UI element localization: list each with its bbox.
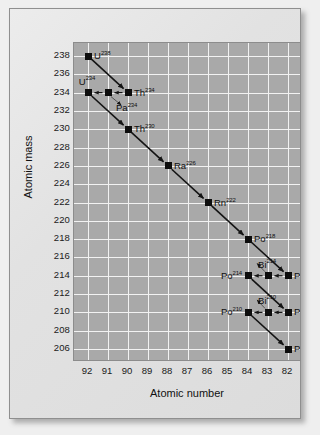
y-tick-label: 206	[30, 342, 70, 353]
x-axis-ticks: 9291908988878685848382	[73, 365, 301, 381]
chart-page: Atomic mass 2382362342322302282262242222…	[0, 0, 320, 435]
data-point-marker	[265, 272, 272, 279]
y-axis-ticks: 2382362342322302282262242222202182162142…	[24, 42, 70, 361]
y-tick-label: 238	[30, 49, 70, 60]
data-point-marker	[285, 272, 292, 279]
nuclide-label: Th234	[134, 86, 155, 97]
y-tick-label: 216	[30, 250, 70, 261]
plot-area: U238Th234Pa234U234Th230Ra226Rn222Po218Pb…	[73, 42, 301, 361]
nuclide-label: Po210	[221, 306, 242, 317]
data-point-marker	[245, 236, 252, 243]
data-point-marker	[205, 199, 212, 206]
y-tick-label: 214	[30, 269, 70, 280]
decay-arrow-alpha	[252, 316, 284, 345]
nuclide-label: Pb214	[294, 269, 301, 280]
data-point-marker	[85, 53, 92, 60]
decay-arrow-alpha	[132, 133, 164, 162]
nuclide-label: Ra226	[174, 160, 196, 171]
y-tick-label: 212	[30, 287, 70, 298]
data-point-marker	[245, 272, 252, 279]
data-point-marker	[125, 126, 132, 133]
nuclide-label: Po214	[221, 269, 242, 280]
nuclide-label: Bi214	[258, 258, 276, 269]
data-point-marker	[105, 89, 112, 96]
y-tick-label: 232	[30, 104, 70, 115]
y-tick-label: 222	[30, 196, 70, 207]
nuclide-label: Rn222	[214, 196, 236, 207]
chart-card: Atomic mass 2382362342322302282262242222…	[9, 8, 301, 419]
x-tick-label: 82	[274, 365, 300, 376]
nuclide-label: Po218	[254, 233, 275, 244]
nuclide-label: Pa234	[116, 101, 137, 112]
decay-arrow-alpha	[172, 169, 204, 198]
y-tick-label: 220	[30, 214, 70, 225]
data-point-marker	[285, 309, 292, 316]
decay-arrow-alpha	[212, 206, 244, 235]
nuclide-label: Pb206	[294, 343, 301, 354]
y-tick-label: 218	[30, 232, 70, 243]
y-tick-label: 226	[30, 159, 70, 170]
y-tick-label: 210	[30, 305, 70, 316]
y-tick-label: 234	[30, 86, 70, 97]
data-point-marker	[285, 346, 292, 353]
nuclide-label: U234	[79, 75, 95, 86]
nuclide-label: Th230	[134, 123, 155, 134]
y-tick-label: 230	[30, 122, 70, 133]
data-point-marker	[245, 309, 252, 316]
y-tick-label: 228	[30, 141, 70, 152]
y-tick-label: 224	[30, 177, 70, 188]
data-point-marker	[85, 89, 92, 96]
nuclide-label: Bi210	[258, 295, 276, 306]
nuclide-label: U238	[94, 50, 110, 61]
decay-arrow-alpha	[92, 59, 124, 88]
y-tick-label: 208	[30, 324, 70, 335]
data-point-marker	[265, 309, 272, 316]
y-tick-label: 236	[30, 67, 70, 78]
data-point-marker	[125, 89, 132, 96]
x-axis-title: Atomic number	[73, 387, 301, 399]
nuclide-label: Pb210	[294, 306, 301, 317]
data-point-marker	[165, 162, 172, 169]
